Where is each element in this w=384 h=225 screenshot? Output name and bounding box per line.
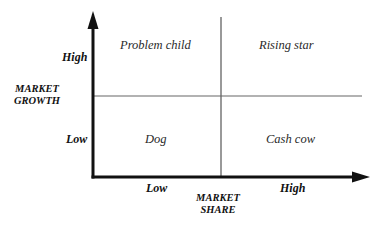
quadrant-rising-star: Rising star <box>259 38 314 53</box>
y-axis-title-line1: MARKET <box>12 83 62 95</box>
x-axis-title-line1: MARKET <box>190 192 246 204</box>
x-axis-high-label: High <box>280 181 305 196</box>
quadrant-cash-cow: Cash cow <box>266 132 315 147</box>
y-axis-title-line2: GROWTH <box>12 95 62 107</box>
quadrant-problem-child: Problem child <box>120 38 191 53</box>
y-axis-high-label: High <box>62 50 87 65</box>
quadrant-dog: Dog <box>145 132 167 147</box>
x-axis-arrow-icon <box>352 172 370 183</box>
x-axis-low-label: Low <box>146 181 167 196</box>
x-axis-title: MARKET SHARE <box>190 192 246 216</box>
y-axis-arrow-icon <box>88 11 99 29</box>
x-axis-title-line2: SHARE <box>190 204 246 216</box>
y-axis-title: MARKET GROWTH <box>12 83 62 107</box>
y-axis-low-label: Low <box>66 132 87 147</box>
